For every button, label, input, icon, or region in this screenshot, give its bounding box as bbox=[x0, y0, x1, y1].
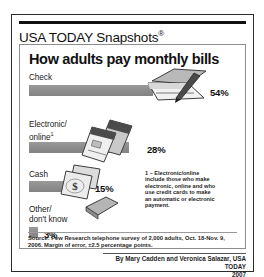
snapshot-infographic: USA TODAY Snapshots® How adults pay mont… bbox=[0, 0, 264, 277]
masthead-rule bbox=[19, 21, 246, 24]
chart-credit: By Mary Cadden and Veronica Salazar, USA… bbox=[96, 255, 246, 277]
bar-row-check: Check bbox=[29, 73, 52, 83]
checkbook-icon bbox=[144, 67, 214, 105]
bar-check bbox=[29, 85, 153, 96]
bar-track-check bbox=[29, 85, 153, 96]
source-divider bbox=[28, 232, 237, 233]
bar-label-electronic-line2: online1 bbox=[29, 130, 67, 142]
bar-label-cash: Cash bbox=[29, 170, 48, 180]
credit-divider bbox=[103, 253, 246, 254]
bar-label-electronic-group: Electronic/ online1 bbox=[29, 120, 67, 142]
bar-label-other-line1: Other/ bbox=[29, 205, 67, 215]
bar-label-cash-text: Cash bbox=[29, 170, 48, 180]
registered-mark-icon: ® bbox=[158, 29, 164, 38]
credit-authors: By Mary Cadden and Veronica Salazar, USA… bbox=[115, 255, 246, 270]
chart-panel: How adults pay monthly bills Check 54% bbox=[19, 44, 246, 249]
bar-label-electronic-line1: Electronic/ bbox=[29, 120, 67, 130]
masthead-title-text: USA TODAY Snapshots bbox=[19, 30, 158, 45]
chart-source: Source: Pew Research telephone survey of… bbox=[28, 235, 240, 250]
masthead-title: USA TODAY Snapshots® bbox=[19, 25, 246, 42]
credit-cards-icon bbox=[80, 117, 142, 163]
chart-footnote: 1 – Electronic/online include those who … bbox=[145, 170, 217, 208]
bar-value-electronic: 28% bbox=[147, 144, 165, 155]
coins-icon bbox=[80, 195, 122, 225]
chart-title: How adults pay monthly bills bbox=[29, 51, 241, 67]
bar-label-other-group: Other/ don't know bbox=[29, 205, 67, 224]
bar-label-check: Check bbox=[29, 73, 52, 83]
credit-year: 2007 bbox=[96, 271, 246, 277]
bar-label-other-line2: don't know bbox=[29, 215, 67, 225]
svg-text:$: $ bbox=[72, 180, 78, 192]
footnote-marker: 1 bbox=[51, 131, 54, 137]
